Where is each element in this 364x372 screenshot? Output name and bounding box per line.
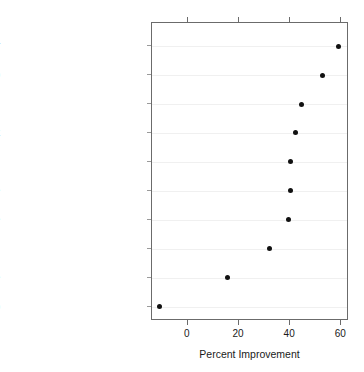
gridline	[152, 220, 347, 221]
y-axis-tick	[147, 45, 151, 46]
gridline	[152, 191, 347, 192]
gridline	[152, 104, 347, 105]
y-axis-tick	[147, 103, 151, 104]
data-point	[320, 73, 325, 78]
x-axis-tick-bottom	[340, 320, 341, 325]
dot-plot-figure: • · 0204060 Program the CD playerConnect…	[0, 0, 364, 372]
y-axis-tick	[147, 132, 151, 133]
x-axis-tick-top	[238, 17, 239, 22]
x-axis-tick-top	[289, 17, 290, 22]
gridline	[152, 133, 347, 134]
gridline	[152, 249, 347, 250]
x-axis-tick-bottom	[187, 320, 188, 325]
y-axis-tick	[147, 306, 151, 307]
y-axis-tick	[147, 248, 151, 249]
y-axis-tick	[147, 277, 151, 278]
data-point	[299, 102, 304, 107]
gridline	[152, 75, 347, 76]
x-axis-tick-label: 0	[184, 328, 190, 339]
x-axis-title: Percent Improvement	[151, 348, 348, 360]
data-point	[286, 217, 291, 222]
x-axis-tick-bottom	[238, 320, 239, 325]
data-point	[157, 304, 162, 309]
gridline	[152, 46, 347, 47]
x-axis-tick-label: 60	[335, 328, 346, 339]
data-point	[225, 275, 230, 280]
x-axis-tick-top	[340, 17, 341, 22]
caption-left-fragment: •	[4, 0, 8, 3]
x-axis-tick-top	[187, 17, 188, 22]
y-axis-tick	[147, 74, 151, 75]
data-point	[336, 44, 341, 49]
gridline	[152, 278, 347, 279]
gridline	[152, 162, 347, 163]
x-axis-tick-label: 20	[232, 328, 243, 339]
plot-panel	[151, 22, 348, 320]
cut-off-caption: • ·	[0, 0, 364, 3]
x-axis-tick-label: 40	[284, 328, 295, 339]
data-point	[267, 246, 272, 251]
x-axis-tick-bottom	[289, 320, 290, 325]
data-point	[293, 130, 298, 135]
y-axis-tick	[147, 161, 151, 162]
y-axis-tick	[147, 219, 151, 220]
caption-right-fragment: ·	[252, 0, 256, 3]
data-point	[288, 188, 293, 193]
y-axis-tick	[147, 190, 151, 191]
gridline	[152, 307, 347, 308]
data-point	[288, 159, 293, 164]
